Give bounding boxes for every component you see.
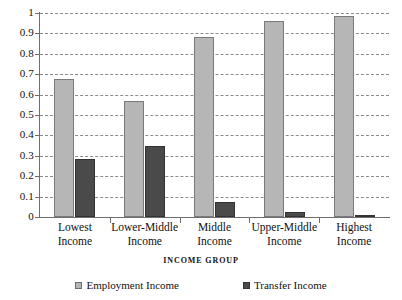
legend-item-employment[interactable]: Employment Income [75,279,179,291]
y-axis-tick-label: 0.4 [2,129,34,140]
bar-transfer-1 [145,146,165,217]
y-axis-tick-label: 1 [2,7,34,18]
y-axis-tick-label: 0.6 [2,89,34,100]
bar-chart: 00.10.20.30.40.50.60.70.80.91 LowestInco… [0,0,402,300]
bar-employment-3 [264,21,284,217]
bar-transfer-3 [285,212,305,217]
y-axis-tick-label: 0.2 [2,170,34,181]
bar-transfer-2 [215,202,235,217]
y-axis-tick-label: 0.8 [2,48,34,59]
bar-transfer-4 [355,215,375,217]
category-label-line: Highest [311,221,397,235]
y-axis-tick-label: 0.9 [2,27,34,38]
x-axis-line [39,217,390,218]
bars-layer [40,13,389,217]
category-label-line: Income [311,235,397,249]
employment-swatch-icon [75,282,82,289]
y-axis-tick-label: 0.5 [2,109,34,120]
y-axis-tick-label: 0.7 [2,68,34,79]
bar-employment-1 [124,101,144,217]
legend-label: Employment Income [86,279,179,291]
bar-employment-4 [334,16,354,217]
bar-employment-0 [54,79,74,217]
legend-label: Transfer Income [254,279,327,291]
y-axis-tick-label: 0 [2,211,34,222]
x-axis-title: INCOME GROUP [0,256,402,265]
y-axis-tick-label: 0.3 [2,150,34,161]
x-axis-category-label: HighestIncome [311,221,397,248]
transfer-swatch-icon [243,282,250,289]
legend-item-transfer[interactable]: Transfer Income [243,279,327,291]
y-axis-tick-label: 0.1 [2,191,34,202]
bar-employment-2 [194,37,214,217]
chart-legend: Employment IncomeTransfer Income [0,279,402,291]
bar-transfer-0 [75,159,95,217]
plot-wrapper: 00.10.20.30.40.50.60.70.80.91 LowestInco… [0,0,402,300]
